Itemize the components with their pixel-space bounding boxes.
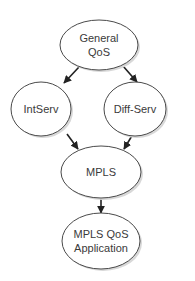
node-intserv: IntServ — [11, 82, 73, 138]
node-diffserv: Diff-Serv — [104, 82, 168, 138]
node-general-qos: General QoS — [60, 20, 140, 72]
edge-intserv-to-mpls — [67, 134, 78, 149]
node-label: QoS — [88, 46, 110, 58]
edge-general-to-intserv — [64, 67, 79, 83]
node-mpls-qos-application: MPLS QoS Application — [62, 213, 142, 271]
edge-general-to-diffserv — [123, 66, 137, 82]
node-mpls: MPLS — [61, 146, 143, 200]
node-label: IntServ — [24, 103, 59, 115]
node-label: MPLS — [86, 166, 116, 178]
node-label: MPLS QoS — [73, 228, 128, 240]
node-label: General — [79, 32, 118, 44]
node-label: Diff-Serv — [114, 103, 157, 115]
qos-diagram: General QoS IntServ Diff-Serv MPLS MPLS … — [0, 0, 195, 281]
node-label: Application — [74, 242, 128, 254]
